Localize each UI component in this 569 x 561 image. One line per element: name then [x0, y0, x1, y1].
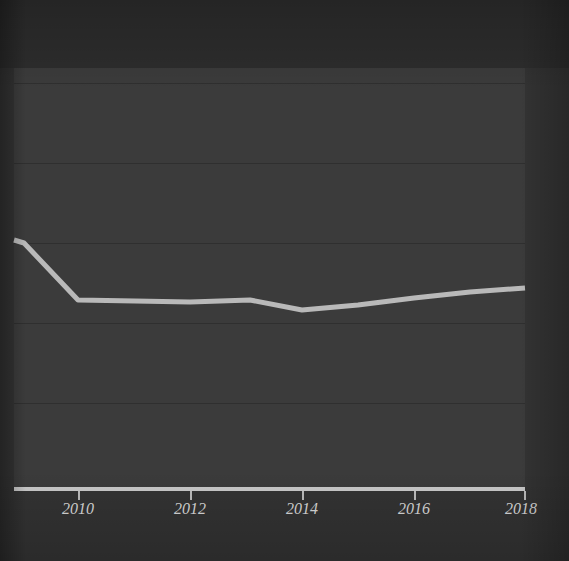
x-axis-tick-label-2012: 2012: [155, 500, 225, 518]
x-axis-line: [14, 487, 525, 491]
x-axis-tick: [78, 491, 80, 500]
x-axis-tick: [190, 491, 192, 500]
gridline: [14, 163, 525, 164]
gridline: [14, 403, 525, 404]
x-axis-tick: [302, 491, 304, 500]
x-axis-tick: [524, 491, 526, 500]
plot-area-background: [14, 68, 525, 489]
gridline: [14, 243, 525, 244]
chart-figure: 2010 2012 2014 2016 2018: [0, 0, 569, 561]
x-axis-tick-label-2010: 2010: [43, 500, 113, 518]
x-axis-tick-label-2018: 2018: [486, 500, 556, 518]
gridline: [14, 323, 525, 324]
x-axis-tick-label-2014: 2014: [267, 500, 337, 518]
x-axis-tick-label-2016: 2016: [379, 500, 449, 518]
x-axis-tick: [414, 491, 416, 500]
chart-title: [170, 30, 400, 64]
plot-right-gutter: [525, 68, 569, 489]
gridline: [14, 83, 525, 84]
